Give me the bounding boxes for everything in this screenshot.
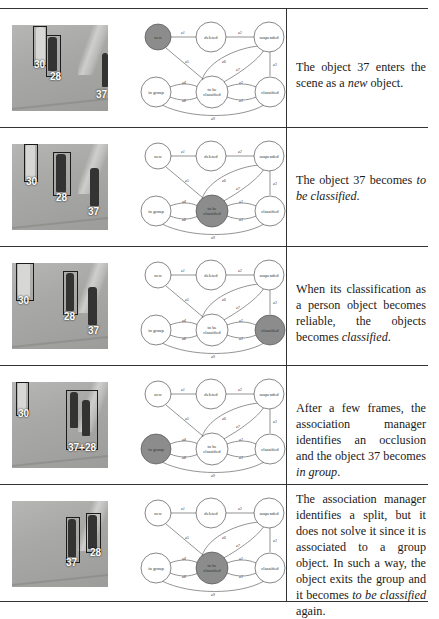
svg-text:deleted: deleted: [204, 154, 218, 159]
svg-text:e3: e3: [239, 574, 243, 579]
svg-text:classified: classified: [261, 90, 279, 95]
svg-text:e9: e9: [211, 116, 216, 121]
svg-text:e2: e2: [239, 80, 243, 85]
svg-text:to be: to be: [207, 325, 216, 330]
svg-text:classified: classified: [203, 568, 221, 573]
svg-text:e6: e6: [222, 297, 227, 302]
svg-text:to be: to be: [207, 563, 216, 568]
svg-text:e9: e9: [211, 354, 216, 359]
svg-text:new: new: [154, 392, 162, 397]
object-label: 37: [88, 206, 99, 217]
svg-text:to be: to be: [207, 87, 216, 92]
svg-text:new: new: [154, 511, 162, 516]
svg-text:suspended: suspended: [259, 511, 279, 516]
svg-text:suspended: suspended: [259, 35, 279, 40]
svg-text:e2: e2: [239, 199, 243, 204]
object-label: 37+28: [68, 442, 96, 453]
state-diagram: e1 e2 e3 e5 e6 e7 e4 e8 e2 e3 e9 new del…: [140, 491, 286, 599]
state-diagram-row-4: e1 e2 e3 e5 e6 e7 e4 e8 e2 e3 e9 new del…: [140, 372, 286, 480]
svg-text:e3: e3: [273, 300, 277, 305]
svg-text:e6: e6: [222, 535, 227, 540]
object-label: 30: [18, 408, 29, 419]
svg-text:e4: e4: [182, 437, 186, 442]
video-frame: 37 28: [12, 501, 108, 587]
object-label: 30: [34, 59, 45, 70]
svg-text:classified: classified: [203, 449, 221, 454]
state-diagram-row-2: e1 e2 e3 e5 e6 e7 e4 e8 e2 e3 e9 new del…: [140, 134, 286, 242]
svg-text:e4: e4: [182, 318, 186, 323]
svg-text:e4: e4: [182, 80, 186, 85]
svg-text:e2: e2: [238, 149, 242, 154]
svg-text:suspended: suspended: [259, 273, 279, 278]
row-description: The association manager identifies a spl…: [296, 491, 426, 619]
svg-text:e7: e7: [236, 67, 241, 72]
svg-text:deleted: deleted: [204, 273, 218, 278]
state-diagram-row-1: e1 e2 e3 e5 e6 e7 e4 e8 e2 e3 e9 new del…: [140, 15, 286, 123]
svg-text:e1: e1: [181, 268, 185, 273]
svg-text:e8: e8: [182, 336, 187, 341]
svg-text:new: new: [154, 154, 162, 159]
svg-text:classified: classified: [203, 211, 221, 216]
svg-text:e2: e2: [239, 318, 243, 323]
svg-text:to be: to be: [207, 206, 216, 211]
svg-text:classified: classified: [203, 330, 221, 335]
svg-text:e2: e2: [239, 437, 243, 442]
svg-text:e8: e8: [182, 217, 187, 222]
svg-text:e3: e3: [239, 455, 243, 460]
svg-text:e8: e8: [182, 98, 187, 103]
object-label: 37: [88, 325, 99, 336]
table-row: 30 28 37 e1 e2 e3 e5: [0, 128, 428, 247]
table-row: 37 28 e1 e2 e3 e5 e6: [0, 485, 428, 602]
svg-text:e2: e2: [238, 387, 242, 392]
object-label: 28: [56, 192, 67, 203]
svg-text:suspended: suspended: [259, 154, 279, 159]
svg-text:deleted: deleted: [204, 392, 218, 397]
svg-text:deleted: deleted: [204, 35, 218, 40]
svg-text:e9: e9: [211, 235, 216, 240]
state-diagram-row-5: e1 e2 e3 e5 e6 e7 e4 e8 e2 e3 e9 new del…: [140, 491, 286, 599]
svg-text:e7: e7: [236, 543, 241, 548]
svg-text:new: new: [154, 35, 162, 40]
svg-text:in group: in group: [148, 209, 164, 214]
svg-text:e5: e5: [185, 416, 189, 421]
svg-text:classified: classified: [261, 209, 279, 214]
svg-text:e6: e6: [222, 59, 227, 64]
svg-text:classified: classified: [261, 328, 279, 333]
svg-text:e3: e3: [239, 98, 243, 103]
state-diagram: e1 e2 e3 e5 e6 e7 e4 e8 e2 e3 e9 new del…: [140, 372, 286, 480]
video-frame: 30 37+28: [12, 382, 108, 468]
svg-text:e1: e1: [181, 149, 185, 154]
svg-text:e1: e1: [181, 506, 185, 511]
svg-text:e8: e8: [182, 455, 187, 460]
svg-text:e3: e3: [273, 419, 277, 424]
svg-text:deleted: deleted: [204, 511, 218, 516]
svg-text:e7: e7: [236, 186, 241, 191]
table-row: 30 28 37 e1 e2 e3 e5: [0, 9, 428, 128]
state-diagram: e1 e2 e3 e5 e6 e7 e4 e8 e2 e3 e9 new del…: [140, 15, 286, 123]
svg-text:e6: e6: [222, 178, 227, 183]
svg-text:classified: classified: [261, 447, 279, 452]
svg-text:e4: e4: [182, 556, 186, 561]
figure-table: 30 28 37 e1 e2 e3 e5: [0, 8, 428, 602]
svg-text:e1: e1: [181, 387, 185, 392]
bbox-37-28: [66, 390, 98, 450]
svg-text:to be: to be: [207, 444, 216, 449]
svg-text:suspended: suspended: [259, 392, 279, 397]
video-frame: 30 28 37: [12, 25, 108, 111]
svg-text:new: new: [154, 273, 162, 278]
svg-text:classified: classified: [203, 92, 221, 97]
row-description: The object 37 enters the scene as a new …: [296, 59, 426, 91]
svg-text:e3: e3: [273, 181, 277, 186]
object-label: 28: [90, 547, 101, 558]
object-label: 28: [64, 311, 75, 322]
object-label: 30: [18, 295, 29, 306]
svg-text:e2: e2: [238, 30, 242, 35]
svg-text:in group: in group: [148, 447, 164, 452]
object-label: 30: [26, 176, 37, 187]
svg-text:e8: e8: [182, 574, 187, 579]
state-diagram: e1 e2 e3 e5 e6 e7 e4 e8 e2 e3 e9 new del…: [140, 134, 286, 242]
svg-text:e5: e5: [185, 535, 189, 540]
svg-text:in group: in group: [148, 90, 164, 95]
svg-text:e7: e7: [236, 305, 241, 310]
table-row: 30 37+28 e1 e2 e3 e5 e6: [0, 366, 428, 485]
